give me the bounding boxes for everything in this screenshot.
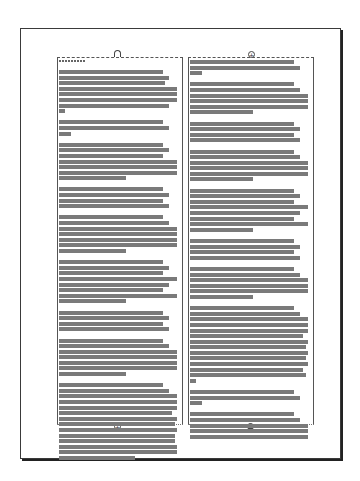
greeked-text-line	[190, 150, 294, 154]
greeked-text-line	[59, 249, 126, 253]
greeked-text-line	[59, 187, 163, 191]
greeked-text-line	[190, 289, 308, 293]
greeked-text-line	[59, 361, 177, 365]
greeked-text-line	[59, 148, 169, 152]
greeked-text-line	[190, 312, 300, 316]
greeked-text-line	[190, 122, 294, 126]
greeked-text-line	[190, 222, 308, 226]
greeked-text-line	[59, 126, 169, 130]
greeked-text-line	[190, 401, 202, 405]
greeked-text-line	[59, 417, 177, 421]
greeked-text-line	[59, 450, 177, 454]
greeked-text-line	[190, 278, 308, 282]
greeked-text-line	[190, 412, 294, 416]
greeked-text-line	[190, 323, 308, 327]
greeked-text-line	[190, 94, 308, 98]
greeked-text-line	[59, 143, 163, 147]
greeked-text-line	[59, 456, 135, 460]
greeked-text-line	[190, 105, 308, 109]
greeked-text-line	[190, 194, 300, 198]
greeked-text-line	[190, 127, 300, 131]
greeked-text-line	[190, 345, 306, 349]
greeked-text-line	[59, 104, 169, 108]
greeked-text-line	[59, 266, 169, 270]
greeked-text-line	[59, 160, 177, 164]
greeked-text-line	[59, 428, 177, 432]
greeked-text-line	[59, 87, 177, 91]
greeked-text-line	[59, 445, 177, 449]
greeked-text-line	[59, 411, 172, 415]
greeked-text-left	[59, 60, 181, 462]
greeked-text-line	[190, 71, 202, 75]
greeked-text-line	[59, 372, 126, 376]
greeked-text-line	[59, 277, 177, 281]
greeked-text-line	[59, 327, 169, 331]
greeked-text-line	[190, 250, 294, 254]
greeked-text-line	[190, 217, 294, 221]
greeked-text-line	[59, 271, 163, 275]
text-frame-right[interactable]: +	[188, 57, 314, 425]
greeked-text-line	[59, 70, 163, 74]
greeked-text-line	[190, 329, 308, 333]
greeked-text-line	[59, 394, 177, 398]
greeked-text-line	[59, 422, 175, 426]
greeked-text-line	[190, 110, 253, 114]
greeked-text-line	[59, 355, 177, 359]
greeked-text-line	[59, 260, 163, 264]
greeked-text-line	[59, 204, 169, 208]
greeked-text-line	[190, 200, 294, 204]
greeked-text-line	[190, 155, 300, 159]
empty-in-port-icon[interactable]	[114, 50, 121, 57]
greeked-text-line	[59, 316, 169, 320]
greeked-text-line	[59, 81, 165, 85]
greeked-text-line	[190, 284, 308, 288]
greeked-text-line	[190, 82, 294, 86]
greeked-text-line	[59, 238, 177, 242]
greeked-text-line	[190, 306, 294, 310]
greeked-text-line	[190, 172, 308, 176]
greeked-text-line	[59, 389, 169, 393]
greeked-text-line	[59, 98, 177, 102]
greeked-text-line	[59, 322, 163, 326]
greeked-text-line	[59, 165, 177, 169]
greeked-text-line	[190, 424, 308, 428]
greeked-text-line	[190, 245, 300, 249]
frame-top-edge	[57, 57, 183, 58]
greeked-text-line	[59, 227, 177, 231]
greeked-text-line	[190, 239, 294, 243]
greeked-text-line	[59, 176, 126, 180]
greeked-text-line	[190, 138, 300, 142]
greeked-text-line	[59, 243, 177, 247]
greeked-text-line	[190, 340, 308, 344]
greeked-text-line	[59, 154, 163, 158]
greeked-text-line	[59, 406, 177, 410]
greeked-text-line	[59, 311, 163, 315]
greeked-text-line	[59, 132, 71, 136]
greeked-text-line	[59, 434, 175, 438]
greeked-text-line	[190, 267, 294, 271]
greeked-text-line	[59, 232, 177, 236]
linked-in-port-icon[interactable]: +	[248, 51, 255, 58]
greeked-text-line	[59, 288, 163, 292]
greeked-text-line	[190, 390, 294, 394]
greeked-text-line	[190, 351, 308, 355]
greeked-text-line	[190, 362, 308, 366]
greeked-text-line	[190, 418, 300, 422]
greeked-text-line	[190, 189, 294, 193]
greeked-text-line	[190, 295, 253, 299]
greeked-text-line	[59, 339, 163, 343]
greeked-text-right	[190, 60, 312, 440]
greeked-text-line	[59, 120, 163, 124]
greeked-text-line	[59, 199, 163, 203]
greeked-text-line	[59, 283, 169, 287]
greeked-text-line	[190, 177, 253, 181]
text-frame-left[interactable]: +	[57, 57, 183, 425]
greeked-text-line	[190, 228, 253, 232]
greeked-text-line	[190, 373, 306, 377]
greeked-heading	[59, 60, 85, 62]
greeked-text-line	[59, 171, 177, 175]
greeked-text-line	[59, 400, 177, 404]
greeked-text-line	[190, 396, 300, 400]
greeked-text-line	[190, 273, 300, 277]
greeked-text-line	[190, 133, 294, 137]
